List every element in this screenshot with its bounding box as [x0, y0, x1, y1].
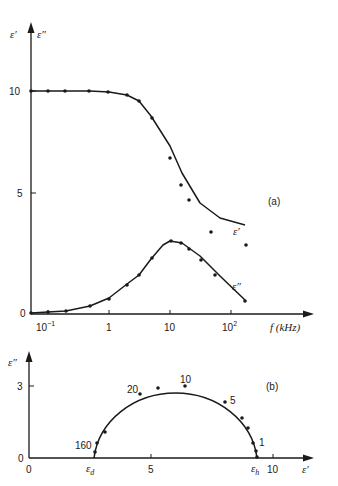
ytick-label-b-3: 3 — [17, 381, 23, 392]
point-label-1: 1 — [259, 437, 265, 448]
xtick-label-100: 102 — [222, 320, 237, 333]
xtick-label-b-10: 10 — [267, 464, 279, 475]
x-axis-label-a: f (kHz) — [270, 321, 301, 334]
figure: ε′ ε″ 10 5 0 10−1 1 10 102 f (kHz) ε′ — [0, 0, 338, 486]
panel-label-b: (b) — [266, 381, 278, 392]
ytick-label-b-0: 0 — [18, 453, 24, 464]
y-label-b: ε″ — [8, 356, 17, 368]
xtick-label-b-5: 5 — [148, 464, 154, 475]
ytick-label-5: 5 — [17, 188, 23, 199]
eps-prime-points — [29, 89, 248, 247]
point-label-10: 10 — [180, 374, 192, 385]
eps-h-marker: εh — [251, 462, 259, 477]
ytick-label-0: 0 — [20, 308, 26, 319]
y-label-eps-double-prime: ε″ — [37, 28, 46, 40]
x-axis-label-b: ε′ — [302, 463, 309, 475]
y-label-eps-prime: ε′ — [10, 28, 17, 40]
point-label-160: 160 — [75, 440, 92, 451]
ytick-label-10: 10 — [9, 86, 21, 97]
panel-a: ε′ ε″ 10 5 0 10−1 1 10 102 f (kHz) ε′ — [9, 22, 314, 334]
xtick-label-1: 1 — [106, 322, 112, 333]
point-label-20: 20 — [127, 384, 139, 395]
eps-prime-label: ε′ — [233, 225, 240, 237]
x-axis-b-arrow-icon — [303, 455, 314, 462]
point-label-5: 5 — [230, 395, 236, 406]
xtick-label-10: 10 — [164, 322, 176, 333]
eps-double-prime-curve — [31, 241, 245, 313]
eps-double-prime-label: ε″ — [232, 280, 241, 292]
y-axis-b-arrow-icon — [26, 351, 33, 362]
y-axis-arrow-icon — [28, 22, 35, 33]
panel-label-a: (a) — [268, 196, 280, 207]
eps-prime-curve — [31, 91, 245, 225]
panel-b: ε″ 3 0 0 5 10 ε′ 160 20 10 5 1 εd εh (b) — [8, 351, 314, 477]
xtick-label-b-0: 0 — [26, 464, 32, 475]
eps-d-marker: εd — [86, 462, 95, 477]
eps-double-prime-points — [29, 239, 247, 315]
x-axis-arrow-icon — [303, 311, 314, 318]
xtick-label-0.1: 10−1 — [36, 320, 55, 333]
